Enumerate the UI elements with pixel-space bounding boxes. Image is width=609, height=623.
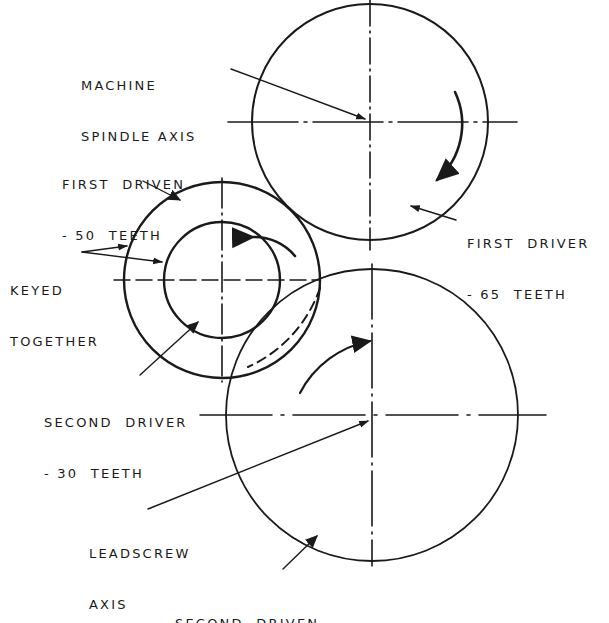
label-line: KEYED [10, 282, 99, 299]
label-line: LEADSCREW [89, 545, 191, 562]
leader-second-driven [283, 536, 317, 569]
label-line: MACHINE [81, 77, 197, 94]
label-second-driven: SECOND DRIVEN - 75 TEETH [175, 581, 319, 623]
label-line: SECOND DRIVER [44, 414, 188, 431]
rotation-arrow-icon [300, 341, 370, 393]
label-keyed-together: KEYED TOGETHER [10, 248, 99, 367]
label-first-driver: FIRST DRIVER - 65 TEETH [467, 201, 589, 320]
label-second-driver: SECOND DRIVER - 30 TEETH [44, 380, 188, 499]
label-line: SECOND DRIVEN [175, 615, 319, 623]
label-line: FIRST DRIVEN [62, 176, 185, 193]
label-line: FIRST DRIVER [467, 235, 589, 252]
label-line: - 65 TEETH [467, 286, 589, 303]
leader-second-driver [140, 322, 198, 375]
label-line: TOGETHER [10, 333, 99, 350]
leader-spindle-axis [231, 69, 365, 119]
label-first-driven: FIRST DRIVEN - 50 TEETH [62, 142, 185, 261]
rotation-arrow-icon [437, 92, 462, 180]
label-line: - 50 TEETH [62, 227, 185, 244]
label-line: - 30 TEETH [44, 465, 188, 482]
